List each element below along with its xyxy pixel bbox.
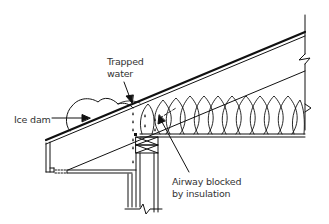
soffit — [55, 170, 136, 173]
trapped-water-label-line2: water — [107, 68, 144, 80]
ice-dam-label: Ice dam — [14, 114, 51, 126]
ice-dam-diagram — [0, 0, 329, 224]
top-plate — [136, 137, 158, 153]
airway-blocked-label-line2: by insulation — [172, 188, 241, 200]
trapped-water-label-line1: Trapped — [107, 56, 144, 68]
ice-dam-shape — [66, 98, 133, 131]
ceiling — [140, 134, 305, 137]
ice-dam-arrow — [52, 115, 90, 122]
airway-blocked-label: Airway blocked by insulation — [172, 176, 241, 200]
fascia — [46, 142, 54, 172]
exterior-wall-studs — [125, 153, 162, 214]
airway-blocked-label-line1: Airway blocked — [172, 176, 241, 188]
roof-deck — [46, 32, 305, 144]
trapped-water-arrow — [124, 82, 133, 103]
trapped-water-label: Trapped water — [107, 56, 144, 80]
